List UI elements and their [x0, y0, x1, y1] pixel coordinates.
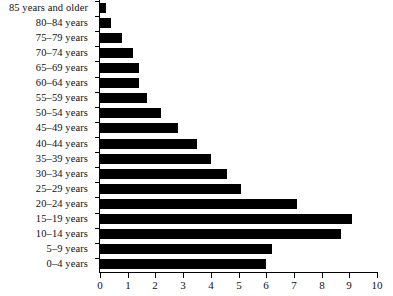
y-axis-tick-mark	[95, 16, 99, 17]
bar	[100, 63, 139, 73]
y-axis-tick-mark	[95, 77, 99, 78]
y-axis-tick-label: 25–29 years	[36, 183, 88, 194]
bar	[100, 199, 297, 209]
y-axis-tick-label: 15–19 years	[36, 213, 88, 224]
x-axis-tick-label: 1	[116, 279, 140, 291]
y-axis-category-labels: 85 years and older80–84 years75–79 years…	[0, 0, 92, 272]
bar	[100, 259, 266, 269]
y-axis-tick-label: 30–34 years	[36, 168, 88, 179]
y-axis-tick-mark	[95, 46, 99, 47]
x-axis-tick-mark	[266, 273, 267, 278]
x-axis-tick-label: 9	[337, 279, 361, 291]
y-axis-tick-label: 40–44 years	[36, 138, 88, 149]
y-axis-tick-label: 70–74 years	[36, 47, 88, 58]
y-axis-tick-mark	[95, 258, 99, 259]
bar	[100, 18, 111, 28]
x-axis-tick-mark	[294, 273, 295, 278]
x-axis-tick-mark	[349, 273, 350, 278]
y-axis-tick-mark	[95, 61, 99, 62]
y-axis-tick-label: 10–14 years	[36, 228, 88, 239]
y-axis-tick-label: 55–59 years	[36, 92, 88, 103]
bar	[100, 123, 178, 133]
bar-chart: 85 years and older80–84 years75–79 years…	[0, 0, 393, 296]
y-axis-tick-mark	[95, 167, 99, 168]
y-axis-tick-label: 60–64 years	[36, 77, 88, 88]
y-axis-tick-label: 35–39 years	[36, 153, 88, 164]
x-axis-tick-label: 5	[227, 279, 251, 291]
x-axis-tick-mark	[128, 273, 129, 278]
x-axis-tick-mark	[377, 273, 378, 278]
y-axis-tick-label: 45–49 years	[36, 122, 88, 133]
x-axis-tick-mark	[100, 273, 101, 278]
bar	[100, 3, 106, 13]
y-axis-tick-label: 0–4 years	[47, 258, 88, 269]
x-axis-tick-mark	[211, 273, 212, 278]
x-axis-tick-mark	[183, 273, 184, 278]
bar	[100, 184, 241, 194]
x-axis-tick-label: 0	[88, 279, 112, 291]
y-axis-tick-mark	[95, 228, 99, 229]
y-axis-tick-mark	[95, 137, 99, 138]
y-axis-tick-label: 85 years and older	[9, 2, 88, 13]
bar	[100, 78, 139, 88]
x-axis-tick-label: 4	[199, 279, 223, 291]
y-axis-tick-label: 80–84 years	[36, 17, 88, 28]
y-axis-tick-mark	[95, 182, 99, 183]
x-axis-tick-label: 3	[171, 279, 195, 291]
y-axis-tick-label: 75–79 years	[36, 32, 88, 43]
y-axis-tick-label: 50–54 years	[36, 107, 88, 118]
y-axis-tick-label: 65–69 years	[36, 62, 88, 73]
y-axis-tick-label: 5–9 years	[47, 243, 88, 254]
bar	[100, 229, 341, 239]
x-axis-tick-label: 7	[282, 279, 306, 291]
y-axis-tick-mark	[95, 152, 99, 153]
x-axis-tick-label: 8	[310, 279, 334, 291]
x-axis-tick-label: 2	[143, 279, 167, 291]
x-axis-tick-label: 6	[254, 279, 278, 291]
y-axis-tick-mark	[95, 213, 99, 214]
bar	[100, 139, 197, 149]
plot-area	[100, 0, 377, 272]
y-axis-tick-mark	[95, 243, 99, 244]
bar	[100, 169, 227, 179]
y-axis-tick-mark	[95, 197, 99, 198]
bar	[100, 108, 161, 118]
y-axis-tick-mark	[95, 122, 99, 123]
x-axis-tick-label: 10	[365, 279, 389, 291]
bar	[100, 33, 122, 43]
bar	[100, 214, 352, 224]
y-axis-tick-mark	[95, 31, 99, 32]
bar	[100, 154, 211, 164]
x-axis-tick-mark	[155, 273, 156, 278]
bar	[100, 48, 133, 58]
x-axis-tick-mark	[322, 273, 323, 278]
y-axis-tick-mark	[95, 92, 99, 93]
bar	[100, 93, 147, 103]
bar	[100, 244, 272, 254]
y-axis-tick-mark	[95, 1, 99, 2]
y-axis-tick-mark	[95, 107, 99, 108]
y-axis-tick-label: 20–24 years	[36, 198, 88, 209]
x-axis-tick-mark	[239, 273, 240, 278]
